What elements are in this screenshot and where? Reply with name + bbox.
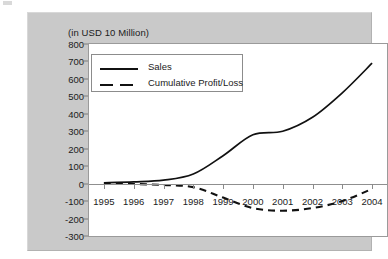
legend-dashed-line-swatch-a <box>100 84 113 86</box>
legend-solid-line-swatch <box>100 68 138 70</box>
legend-label-sales: Sales <box>148 61 172 72</box>
x-axis-tick-mark <box>342 184 343 189</box>
x-axis-tick-mark <box>193 184 194 189</box>
x-axis-tick-mark <box>253 184 254 189</box>
corner-artifact <box>3 1 12 5</box>
y-axis-labels: 8007006005004003002001000-100-200-300 <box>28 13 84 252</box>
legend-dashed-line-swatch-b <box>120 84 133 86</box>
x-axis-tick-label: 1998 <box>183 196 204 207</box>
x-axis-tick-label: 2001 <box>272 196 293 207</box>
x-axis-tick-label: 1996 <box>123 196 144 207</box>
chart-panel: (in USD 10 Million) 80070060050040030020… <box>27 12 372 251</box>
x-axis-tick-label: 2004 <box>362 196 383 207</box>
x-axis-tick-label: 1995 <box>93 196 114 207</box>
x-axis-tick-label: 1997 <box>153 196 174 207</box>
x-axis-tick-mark <box>313 184 314 189</box>
x-axis-tick-mark <box>164 184 165 189</box>
x-axis-tick-mark <box>104 184 105 189</box>
x-axis-tick-mark <box>283 184 284 189</box>
x-axis-tick-mark <box>134 184 135 189</box>
plot-area: Sales Cumulative Profit/Loss <box>88 43 388 237</box>
chart-legend: Sales Cumulative Profit/Loss <box>91 54 243 92</box>
x-axis-tick-label: 1999 <box>213 196 234 207</box>
x-axis-tick-mark <box>372 184 373 189</box>
legend-label-cumulative-profit-loss: Cumulative Profit/Loss <box>148 77 243 88</box>
x-axis-tick-label: 2000 <box>242 196 263 207</box>
x-axis-tick-label: 2002 <box>302 196 323 207</box>
x-axis-tick-mark <box>223 184 224 189</box>
x-axis-tick-label: 2003 <box>332 196 353 207</box>
